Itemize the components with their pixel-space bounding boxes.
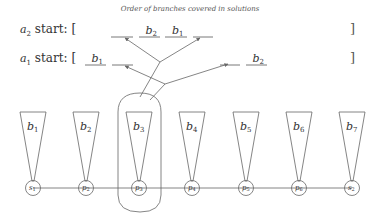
node-label: p5 xyxy=(242,184,250,192)
branch-label: b3 xyxy=(133,120,145,134)
branch-label: b4 xyxy=(186,120,198,134)
row-a2-close-bracket: ] xyxy=(350,21,355,36)
branch-triangle-6: b6 xyxy=(286,112,312,181)
node-label: s1 xyxy=(29,184,36,192)
branch-label: b1 xyxy=(27,120,39,134)
branch-triangle-3: b3 xyxy=(126,112,152,181)
arrow-to-a2-slot4 xyxy=(160,38,200,62)
slot-label: b2 xyxy=(253,52,265,66)
row-a1-label: a1 start: [ xyxy=(20,51,76,67)
diagram: Order of branches covered in solutions a… xyxy=(0,0,380,218)
branch-label: b5 xyxy=(240,120,252,134)
branch-triangle-1: b1 xyxy=(20,112,46,181)
branch-label: b2 xyxy=(80,120,92,134)
arrow-to-a1-slot3 xyxy=(165,64,228,84)
arrow-to-a1-slot2 xyxy=(125,66,165,84)
node-label: p6 xyxy=(295,184,303,192)
row-a1-close-bracket: ] xyxy=(350,50,355,65)
arrow-to-a2-slot1 xyxy=(125,38,160,62)
node-label: s2 xyxy=(348,184,355,192)
row-a2-label: a2 start: [ xyxy=(20,22,76,38)
slot-label: b1 xyxy=(92,52,104,66)
branch-triangle-2: b2 xyxy=(73,112,99,181)
node-label: p2 xyxy=(82,184,90,192)
diagram-title: Order of branches covered in solutions xyxy=(121,5,260,13)
slot-label: b2 xyxy=(146,24,158,38)
arrow-stem-a2 xyxy=(140,62,160,97)
node-label: p4 xyxy=(188,184,196,192)
arrows xyxy=(125,38,228,100)
branch-triangle-7: b7 xyxy=(339,112,365,181)
arrow-stem-a1 xyxy=(150,84,165,100)
slot-label: b1 xyxy=(172,24,184,38)
highlight-oval-p3 xyxy=(118,93,161,212)
branch-triangle-5: b5 xyxy=(233,112,259,181)
node-label: p3 xyxy=(135,184,143,192)
branch-triangle-4: b4 xyxy=(179,112,205,181)
branch-label: b7 xyxy=(346,120,358,134)
branch-label: b6 xyxy=(293,120,305,134)
